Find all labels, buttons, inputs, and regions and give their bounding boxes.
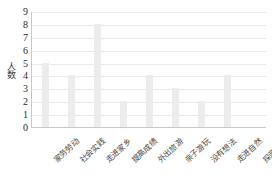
bar-slot <box>188 12 214 127</box>
y-tick-9: 9 <box>16 7 28 17</box>
y-tick-4: 4 <box>16 71 28 81</box>
x-label-slot: 走进家乡 <box>83 129 109 180</box>
y-axis-title: 人数 <box>2 48 16 92</box>
y-tick-6: 6 <box>16 46 28 56</box>
y-tick-7: 7 <box>16 33 28 43</box>
bar-slot <box>84 12 110 127</box>
x-label-slot: 家务劳动 <box>31 129 57 180</box>
bar-slot <box>240 12 266 127</box>
x-label-slot: 探亲访友 <box>240 129 266 180</box>
bar-slot <box>162 12 188 127</box>
bar-slot <box>110 12 136 127</box>
bar[interactable] <box>172 88 179 127</box>
x-label-slot: 外出旅游 <box>135 129 161 180</box>
x-label-slot: 没有想法 <box>188 129 214 180</box>
y-tick-0: 0 <box>16 123 28 133</box>
y-tick-5: 5 <box>16 59 28 69</box>
bars-layer <box>32 12 266 127</box>
x-label-slot: 亲子游玩 <box>162 129 188 180</box>
x-label-slot: 提高成绩 <box>109 129 135 180</box>
x-label-slot: 走进自然 <box>214 129 240 180</box>
x-tick-label: 探亲访友 <box>261 137 272 164</box>
bar[interactable] <box>68 75 75 127</box>
bar[interactable] <box>146 75 153 127</box>
bar-slot <box>32 12 58 127</box>
y-tick-8: 8 <box>16 20 28 30</box>
plot-area <box>31 12 266 128</box>
y-tick-3: 3 <box>16 84 28 94</box>
y-tick-1: 1 <box>16 110 28 120</box>
x-axis-tick-labels: 家务劳动社会实践走进家乡提高成绩外出旅游亲子游玩没有想法走进自然探亲访友 <box>31 129 266 180</box>
bar[interactable] <box>198 101 205 127</box>
y-axis-tick-labels: 9876543210 <box>16 12 28 128</box>
bar-slot <box>214 12 240 127</box>
x-label-slot: 社会实践 <box>57 129 83 180</box>
bar[interactable] <box>224 75 231 127</box>
bar-slot <box>136 12 162 127</box>
bar[interactable] <box>42 63 49 127</box>
bar-chart: 人数 9876543210 家务劳动社会实践走进家乡提高成绩外出旅游亲子游玩没有… <box>0 0 272 180</box>
y-tick-2: 2 <box>16 97 28 107</box>
bar-slot <box>58 12 84 127</box>
bar[interactable] <box>120 101 127 127</box>
bar[interactable] <box>94 24 101 127</box>
